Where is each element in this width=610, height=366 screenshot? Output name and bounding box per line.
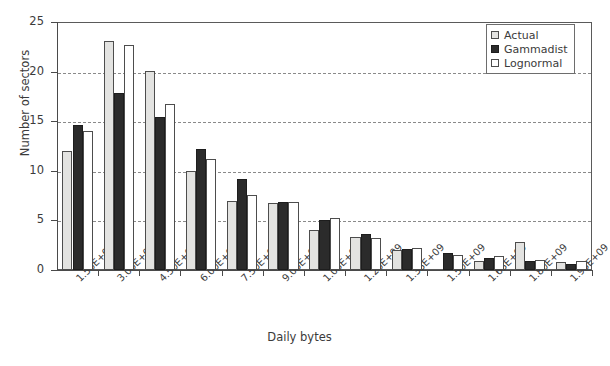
legend-swatch-gammadist-icon — [491, 45, 499, 53]
bar-lognormal-1 — [124, 45, 134, 270]
bar-lognormal-3 — [206, 159, 216, 270]
x-tick-8 — [427, 270, 428, 276]
x-tick-11 — [551, 270, 552, 276]
bar-lognormal-10 — [494, 256, 504, 270]
bar-lognormal-0 — [83, 131, 93, 270]
bar-actual-5 — [268, 203, 278, 270]
bar-gammadist-0 — [73, 125, 83, 270]
y-axis-title: Number of sectors — [18, 23, 32, 183]
x-tick-12 — [592, 270, 593, 276]
y-tick-label-0: 0 — [0, 264, 44, 275]
bar-gammadist-1 — [114, 93, 124, 270]
bar-gammadist-2 — [155, 117, 165, 270]
legend-label-actual: Actual — [504, 29, 538, 42]
bar-lognormal-11 — [535, 260, 545, 270]
legend-label-gammadist: Gammadist — [504, 43, 568, 56]
legend-item-actual: Actual — [491, 28, 568, 42]
x-tick-10 — [510, 270, 511, 276]
bar-lognormal-12 — [576, 261, 586, 270]
x-tick-5 — [304, 270, 305, 276]
bar-lognormal-5 — [288, 202, 298, 270]
x-axis-title: Daily bytes — [0, 330, 599, 344]
x-tick-1 — [139, 270, 140, 276]
bar-lognormal-2 — [165, 104, 175, 270]
x-tick-6 — [345, 270, 346, 276]
bar-gammadist-4 — [237, 179, 247, 270]
x-tick-0 — [98, 270, 99, 276]
bar-gammadist-9 — [443, 253, 453, 270]
bar-lognormal-9 — [453, 255, 463, 270]
legend-item-lognormal: Lognormal — [491, 56, 568, 70]
bar-lognormal-8 — [412, 248, 422, 270]
bar-gammadist-8 — [402, 249, 412, 270]
bar-gammadist-11 — [525, 261, 535, 270]
bar-actual-3 — [186, 171, 196, 270]
bar-actual-10 — [474, 261, 484, 270]
legend-swatch-actual-icon — [491, 31, 499, 39]
bar-gammadist-12 — [566, 264, 576, 270]
bar-actual-1 — [104, 41, 114, 270]
bar-lognormal-6 — [330, 218, 340, 270]
bar-actual-0 — [62, 151, 72, 270]
legend-swatch-lognormal-icon — [491, 59, 499, 67]
legend-box: Actual Gammadist Lognormal — [486, 24, 575, 74]
bar-gammadist-7 — [361, 234, 371, 270]
bar-actual-12 — [556, 262, 566, 270]
bar-gammadist-6 — [319, 220, 329, 270]
bar-actual-7 — [350, 237, 360, 270]
bar-gammadist-5 — [278, 202, 288, 270]
legend-item-gammadist: Gammadist — [491, 42, 568, 56]
bar-lognormal-7 — [371, 238, 381, 270]
bar-actual-4 — [227, 201, 237, 270]
bar-gammadist-10 — [484, 258, 494, 270]
x-tick-4 — [263, 270, 264, 276]
bar-gammadist-3 — [196, 149, 206, 270]
bar-actual-8 — [392, 250, 402, 270]
bar-actual-2 — [145, 71, 155, 270]
bar-lognormal-4 — [247, 195, 257, 270]
y-tick-label-5: 5 — [0, 214, 44, 225]
x-tick-2 — [180, 270, 181, 276]
x-tick-7 — [386, 270, 387, 276]
x-tick-9 — [469, 270, 470, 276]
x-tick-3 — [222, 270, 223, 276]
bar-actual-11 — [515, 242, 525, 270]
legend-label-lognormal: Lognormal — [504, 57, 562, 70]
bar-actual-6 — [309, 230, 319, 270]
